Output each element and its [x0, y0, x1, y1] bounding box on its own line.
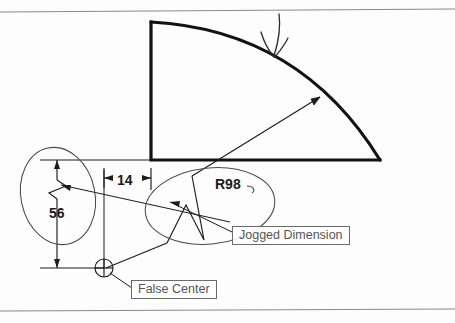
page-border-top: [0, 9, 455, 12]
vertical-dimension-label: 56: [49, 205, 65, 221]
radius-dimension-label: R98: [215, 176, 241, 192]
dimension-56-arrow-top: [54, 160, 60, 169]
dimension-14-arrow-left: [104, 175, 113, 181]
annotation-ellipse-56: [12, 140, 105, 251]
false-center-symbol: [95, 259, 113, 277]
annotation-swoosh: [247, 186, 254, 193]
leader-to-r98-jog: [170, 202, 232, 232]
jogged-dimension-callout: Jogged Dimension: [232, 226, 350, 245]
drawing-page: R98 56 14 Jogged Dimension False Center: [0, 0, 455, 323]
dimension-56-arrow-bottom: [54, 259, 60, 268]
technical-drawing-canvas: [0, 0, 455, 323]
page-border-bottom: [0, 309, 455, 311]
leader-to-false-center: [110, 273, 132, 288]
leader-r98-arrowhead: [170, 201, 180, 207]
false-center-callout: False Center: [131, 280, 217, 299]
dimension-14-arrow-right: [142, 175, 151, 181]
radius-arrowhead: [311, 97, 320, 105]
horizontal-dimension-label: 14: [117, 172, 133, 188]
